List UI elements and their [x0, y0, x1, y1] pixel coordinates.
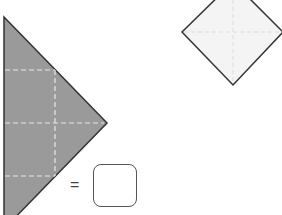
fold-diagram	[0, 0, 282, 215]
equals-sign: =	[70, 176, 79, 194]
white-diamond	[182, 0, 282, 85]
shaded-triangle	[4, 17, 107, 215]
answer-box[interactable]	[93, 164, 137, 207]
